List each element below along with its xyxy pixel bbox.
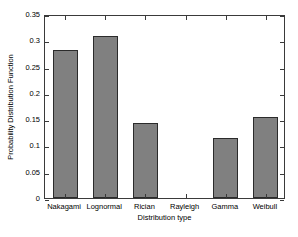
- y-axis-tick-right: [280, 147, 284, 148]
- y-axis-tick-label: 0.1: [30, 142, 40, 150]
- x-axis-tick-top: [145, 16, 146, 20]
- y-axis-tick-right: [280, 42, 284, 43]
- y-axis-tick: [45, 42, 49, 43]
- y-axis-tick-right: [280, 95, 284, 96]
- y-axis-tick: [45, 16, 49, 17]
- x-axis-tick-top: [226, 16, 227, 20]
- bar: [93, 36, 118, 198]
- x-axis-tick-label: Lognormal: [84, 202, 124, 211]
- bar: [53, 50, 78, 198]
- y-axis-tick: [45, 200, 49, 201]
- x-axis-tick-label: Weibull: [245, 202, 285, 211]
- x-axis-tick-label: Rayleigh: [165, 202, 205, 211]
- y-axis-tick-label: 0.35: [25, 11, 40, 19]
- x-axis-tick-label: Nakagami: [44, 202, 84, 211]
- y-axis-tick-right: [280, 69, 284, 70]
- bar: [253, 117, 278, 198]
- y-axis-tick: [45, 174, 49, 175]
- y-axis-tick-label: 0: [36, 195, 40, 203]
- x-axis-tick-top: [65, 16, 66, 20]
- x-axis-tick-top: [186, 16, 187, 20]
- plot-area: [44, 15, 285, 199]
- y-axis-tick: [45, 121, 49, 122]
- x-axis-tick-top: [266, 16, 267, 20]
- y-axis-tick: [45, 69, 49, 70]
- y-axis-tick-label: 0.05: [25, 169, 40, 177]
- x-axis-tick: [105, 194, 106, 198]
- y-axis-tick-label: 0.2: [30, 90, 40, 98]
- x-axis-tick-label: Gamma: [205, 202, 245, 211]
- bar-slot: [53, 16, 78, 198]
- y-axis-tick-right: [280, 174, 284, 175]
- bar: [133, 123, 158, 198]
- bar-slot: [173, 16, 198, 198]
- y-axis-tick-label: 0.25: [25, 64, 40, 72]
- x-axis-tick: [186, 194, 187, 198]
- y-axis-tick-labels: 00.050.10.150.20.250.30.35: [0, 15, 40, 199]
- bar-slot: [133, 16, 158, 198]
- bar-series: [45, 16, 284, 198]
- y-axis-tick: [45, 95, 49, 96]
- bar-slot: [213, 16, 238, 198]
- x-axis-tick-top: [105, 16, 106, 20]
- bar: [213, 138, 238, 198]
- y-axis-tick-label: 0.3: [30, 37, 40, 45]
- x-axis-tick: [266, 194, 267, 198]
- x-axis-tick: [226, 194, 227, 198]
- bar-chart-figure: Probability Distribution Function 00.050…: [0, 0, 298, 237]
- y-axis-tick-right: [280, 16, 284, 17]
- bar-slot: [93, 16, 118, 198]
- y-axis-tick-label: 0.15: [25, 116, 40, 124]
- y-axis-tick-right: [280, 200, 284, 201]
- x-axis-tick: [145, 194, 146, 198]
- x-axis-tick: [65, 194, 66, 198]
- x-axis-title: Distribution type: [44, 213, 285, 222]
- x-axis-tick-label: Rician: [124, 202, 164, 211]
- y-axis-tick: [45, 147, 49, 148]
- bar-slot: [253, 16, 278, 198]
- y-axis-tick-right: [280, 121, 284, 122]
